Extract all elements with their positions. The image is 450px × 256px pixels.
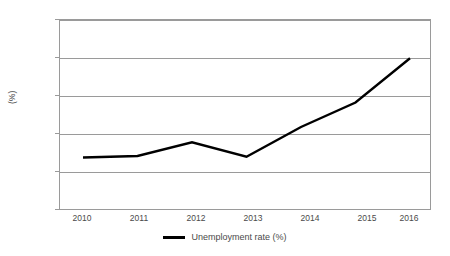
- x-tick-label: 2013: [231, 214, 275, 223]
- chart-legend: Unemployment rate (%): [0, 232, 450, 242]
- x-tick-label: 2016: [387, 214, 431, 223]
- x-tick-label: 2010: [60, 214, 104, 223]
- x-tick-label: 2014: [288, 214, 332, 223]
- y-axis-title: (%): [8, 91, 17, 104]
- y-tick-mark: [55, 171, 59, 172]
- x-tick-label: 2011: [117, 214, 161, 223]
- legend-swatch-icon: [163, 236, 185, 239]
- y-tick-mark: [55, 209, 59, 210]
- y-tick-mark: [55, 19, 59, 20]
- y-tick-mark: [55, 95, 59, 96]
- y-tick-mark: [55, 57, 59, 58]
- line-chart: 26.5 26 25.5 25 24.5 24 (%) 2010 2011 20…: [0, 0, 450, 256]
- x-tick-label: 2012: [174, 214, 218, 223]
- x-tick-label: 2015: [345, 214, 389, 223]
- legend-label: Unemployment rate (%): [191, 232, 286, 242]
- y-tick-mark: [55, 133, 59, 134]
